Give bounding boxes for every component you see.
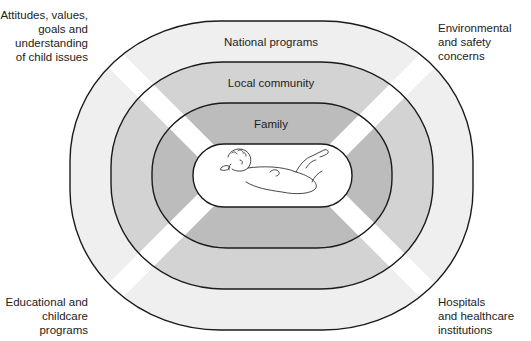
ring-label-family: Family <box>254 118 288 130</box>
label-attitudes-values: Attitudes, values, goals and understandi… <box>0 8 88 64</box>
label-educational-childcare: Educational and childcare programs <box>0 295 88 337</box>
label-line: goals and <box>0 22 88 36</box>
label-line: Attitudes, values, <box>0 8 88 22</box>
label-line: and healthcare <box>438 309 531 323</box>
label-line: childcare <box>0 309 88 323</box>
label-line: programs <box>0 323 88 337</box>
label-hospitals-healthcare: Hospitals and healthcare institutions <box>438 295 531 337</box>
label-line: understanding <box>0 36 88 50</box>
label-line: and safety <box>438 35 531 49</box>
label-line: Hospitals <box>438 295 531 309</box>
label-line: institutions <box>438 323 531 337</box>
label-environmental-safety: Environmental and safety concerns <box>438 21 531 63</box>
ring-label-national: National programs <box>224 36 318 48</box>
label-line: of child issues <box>0 50 88 64</box>
label-line: Environmental <box>438 21 531 35</box>
label-line: Educational and <box>0 295 88 309</box>
label-line: concerns <box>438 49 531 63</box>
ring-label-local: Local community <box>228 77 315 89</box>
